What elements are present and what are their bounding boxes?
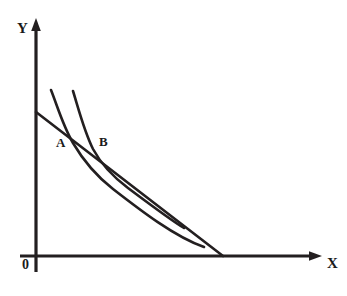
point-b-label: B: [99, 135, 108, 148]
budget-line: [36, 112, 223, 256]
point-a-label: A: [56, 136, 65, 149]
y-axis-arrowhead-icon: [31, 18, 41, 31]
y-axis: [31, 18, 41, 272]
x-axis-arrowhead-icon: [309, 251, 322, 261]
x-axis: [20, 251, 322, 261]
indifference-curve-figure: Y X 0 A B: [0, 0, 347, 296]
origin-label: 0: [22, 258, 29, 272]
indifference-curve-2: [73, 91, 184, 228]
plot-canvas: [0, 0, 347, 296]
y-axis-label: Y: [17, 21, 28, 36]
x-axis-label: X: [327, 256, 338, 271]
